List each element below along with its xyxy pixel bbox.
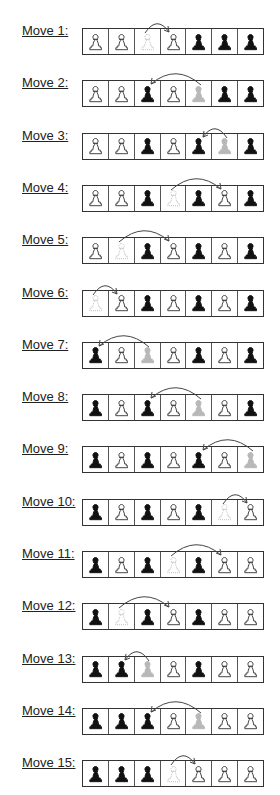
board	[82, 80, 264, 107]
black-pawn-icon	[89, 765, 102, 783]
board-cell	[109, 709, 135, 734]
white-pawn-icon	[167, 85, 180, 103]
board-cell	[83, 291, 109, 316]
board-cell	[186, 29, 212, 54]
board-cell	[83, 552, 109, 577]
board-cell	[161, 447, 187, 472]
white-pawn-icon	[89, 33, 102, 51]
board-cell	[135, 291, 161, 316]
move-row: Move 4:	[0, 180, 280, 220]
faded-white-pawn-icon	[167, 189, 180, 207]
board-cell	[83, 134, 109, 159]
move-label: Move 9:	[22, 441, 68, 456]
board-cell	[186, 134, 212, 159]
board-cell	[109, 552, 135, 577]
white-pawn-icon	[167, 712, 180, 730]
faded-white-pawn-icon	[89, 294, 102, 312]
board-cell	[186, 447, 212, 472]
board-cell	[238, 238, 263, 263]
white-pawn-icon	[115, 189, 128, 207]
board-cell	[238, 134, 263, 159]
board-cell	[135, 395, 161, 420]
board-cell	[109, 395, 135, 420]
black-pawn-icon	[244, 242, 257, 260]
board	[82, 290, 264, 317]
black-pawn-icon	[141, 85, 154, 103]
black-pawn-icon	[192, 189, 205, 207]
board	[82, 237, 264, 264]
board-cell	[109, 134, 135, 159]
board	[82, 603, 264, 630]
white-pawn-icon	[218, 346, 231, 364]
board-cell	[135, 238, 161, 263]
faded-white-pawn-icon	[167, 556, 180, 574]
black-pawn-icon	[89, 399, 102, 417]
board-cell	[186, 500, 212, 525]
board-cell	[238, 604, 263, 629]
white-pawn-icon	[89, 242, 102, 260]
board-cell	[186, 343, 212, 368]
board-cell	[109, 447, 135, 472]
board-cell	[161, 709, 187, 734]
move-row: Move 15:	[0, 755, 280, 795]
board-cell	[135, 761, 161, 786]
black-pawn-icon	[244, 346, 257, 364]
faded-black-pawn-icon	[192, 712, 205, 730]
board-cell	[161, 657, 187, 682]
black-pawn-icon	[141, 399, 154, 417]
board-cell	[238, 500, 263, 525]
move-label: Move 4:	[22, 180, 68, 195]
board-cell	[135, 81, 161, 106]
board-cell	[238, 81, 263, 106]
white-pawn-icon	[218, 556, 231, 574]
board-cell	[135, 657, 161, 682]
board	[82, 185, 264, 212]
move-label: Move 3:	[22, 128, 68, 143]
board-cell	[109, 186, 135, 211]
board-cell	[212, 395, 238, 420]
black-pawn-icon	[115, 765, 128, 783]
white-pawn-icon	[115, 556, 128, 574]
white-pawn-icon	[167, 346, 180, 364]
white-pawn-icon	[115, 503, 128, 521]
board-cell	[109, 238, 135, 263]
board-cell	[135, 343, 161, 368]
board-cell	[83, 343, 109, 368]
move-row: Move 8:	[0, 389, 280, 429]
move-label: Move 13:	[22, 651, 75, 666]
board-cell	[186, 238, 212, 263]
move-row: Move 3:	[0, 128, 280, 168]
board-cell	[161, 500, 187, 525]
board-cell	[83, 395, 109, 420]
board-cell	[109, 291, 135, 316]
board-cell	[186, 604, 212, 629]
board	[82, 551, 264, 578]
black-pawn-icon	[192, 451, 205, 469]
board-cell	[212, 604, 238, 629]
white-pawn-icon	[115, 85, 128, 103]
black-pawn-icon	[141, 608, 154, 626]
faded-black-pawn-icon	[218, 137, 231, 155]
black-pawn-icon	[141, 189, 154, 207]
board-cell	[161, 395, 187, 420]
black-pawn-icon	[192, 294, 205, 312]
move-label: Move 10:	[22, 494, 75, 509]
faded-black-pawn-icon	[141, 346, 154, 364]
move-row: Move 1:	[0, 23, 280, 63]
faded-black-pawn-icon	[141, 660, 154, 678]
board-cell	[83, 238, 109, 263]
white-pawn-icon	[218, 294, 231, 312]
black-pawn-icon	[141, 137, 154, 155]
board-cell	[186, 291, 212, 316]
white-pawn-icon	[115, 294, 128, 312]
board	[82, 28, 264, 55]
move-row: Move 14:	[0, 703, 280, 743]
white-pawn-icon	[218, 399, 231, 417]
white-pawn-icon	[167, 451, 180, 469]
white-pawn-icon	[244, 712, 257, 730]
board	[82, 446, 264, 473]
black-pawn-icon	[244, 294, 257, 312]
move-label: Move 8:	[22, 389, 68, 404]
board-cell	[161, 186, 187, 211]
board-cell	[186, 657, 212, 682]
